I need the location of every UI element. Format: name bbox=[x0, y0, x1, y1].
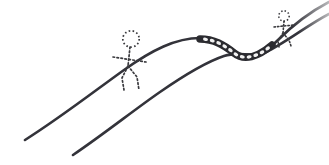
canvas-background bbox=[0, 0, 329, 165]
sketch-canvas bbox=[0, 0, 329, 165]
sketch-drawing bbox=[0, 0, 329, 165]
